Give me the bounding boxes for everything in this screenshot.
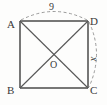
dashed-arc-top xyxy=(21,12,87,21)
geometry-figure: A D B C O 9 x xyxy=(0,0,107,105)
vertex-label-c: C xyxy=(90,85,97,96)
center-label-o: O xyxy=(50,60,57,70)
measure-label-right-arc: x xyxy=(89,57,99,61)
measure-label-top-arc: 9 xyxy=(49,2,54,12)
vertex-label-d: D xyxy=(90,16,98,27)
vertex-label-a: A xyxy=(7,19,15,30)
dashed-arc-right xyxy=(89,22,97,87)
vertex-label-b: B xyxy=(7,85,14,96)
